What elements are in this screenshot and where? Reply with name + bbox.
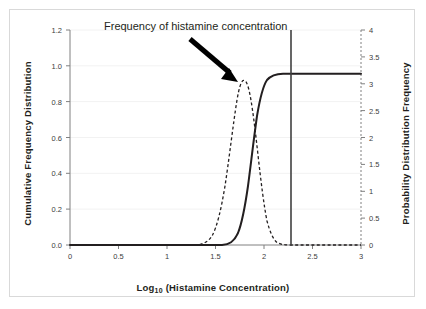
- y-right-tick-4: 4: [369, 26, 395, 35]
- y-left-tick-1.0: 1.0: [36, 62, 62, 71]
- x-axis-title-base: Log: [137, 282, 155, 293]
- x-tick-2.5: 2.5: [300, 252, 326, 261]
- x-tick-2: 2: [251, 252, 277, 261]
- left-axis-spine: [66, 30, 70, 245]
- x-axis-title-subscript: 10: [155, 287, 163, 294]
- y-right-tick-3: 3: [369, 80, 395, 89]
- y-left-tick-1.2: 1.2: [36, 26, 62, 35]
- chart-figure: Frequency of histamine concentration 1.2…: [0, 0, 426, 309]
- y-right-tick-3.5: 3.5: [369, 53, 395, 62]
- y-right-tick-0: 0: [369, 241, 395, 250]
- y-right-tick-2: 2: [369, 134, 395, 143]
- series-probability-distribution: [70, 80, 361, 245]
- series-cumulative-frequency: [70, 74, 361, 245]
- y-right-tick-2.5: 2.5: [369, 107, 395, 116]
- chart-plot-area: [0, 0, 426, 309]
- y-right-tick-1: 1: [369, 187, 395, 196]
- y-right-tick-0.5: 0.5: [369, 214, 395, 223]
- x-axis-title: Log10 (Histamine Concentration): [0, 282, 426, 294]
- annotation-arrow: [190, 39, 238, 82]
- y-left-tick-0.8: 0.8: [36, 98, 62, 107]
- x-tick-1.5: 1.5: [203, 252, 229, 261]
- y-left-tick-0.0: 0.0: [36, 241, 62, 250]
- y-left-tick-0.2: 0.2: [36, 205, 62, 214]
- y-axis-left-title: Cumulative Frequency Distribution: [22, 39, 33, 249]
- x-tick-0.5: 0.5: [106, 252, 132, 261]
- x-tick-0: 0: [57, 252, 83, 261]
- y-left-tick-0.4: 0.4: [36, 169, 62, 178]
- right-axis-spine: [361, 30, 365, 245]
- y-right-tick-1.5: 1.5: [369, 160, 395, 169]
- x-axis-title-rest: (Histamine Concentration): [163, 282, 290, 293]
- x-tick-3: 3: [348, 252, 374, 261]
- gridlines: [70, 30, 361, 209]
- y-axis-right-title: Probability Distribution Frequency: [400, 39, 411, 249]
- y-left-tick-0.6: 0.6: [36, 134, 62, 143]
- x-tick-1: 1: [154, 252, 180, 261]
- annotation-label: Frequency of histamine concentration: [104, 20, 287, 32]
